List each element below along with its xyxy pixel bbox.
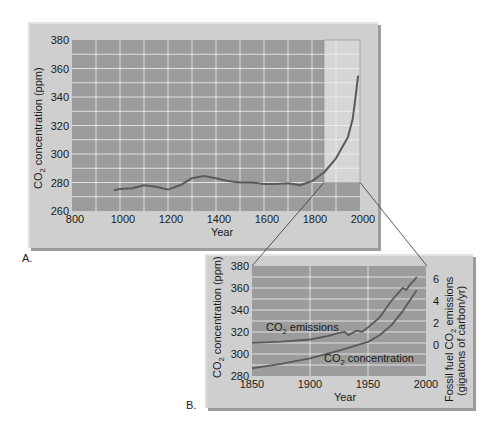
x-tick-label: 1400: [207, 213, 231, 225]
x-tick-label: 1000: [111, 213, 135, 225]
x-tick-label: 1850: [240, 378, 264, 390]
x-tick-label: 1200: [159, 213, 183, 225]
chart-b: 28030032034036038002461850190019502000Ye…: [211, 256, 467, 403]
x-axis-label: Year: [334, 391, 357, 403]
x-tick-label: 1800: [303, 213, 327, 225]
chart-a: 2602803003203403603808001000120014001600…: [32, 34, 375, 238]
y-tick-label-left: 380: [231, 260, 249, 272]
x-tick-label: 2000: [351, 213, 375, 225]
x-tick-label: 1950: [356, 378, 380, 390]
y-tick-label-left: 300: [231, 348, 249, 360]
y-tick-label: 380: [51, 34, 69, 46]
y-tick-label: 320: [51, 120, 69, 132]
y-axis-label-left: CO2 concentration (ppm): [211, 256, 226, 378]
y-tick-label-left: 320: [231, 326, 249, 338]
y-tick-label-right: 2: [433, 317, 439, 329]
y-tick-label-right: 4: [433, 295, 439, 307]
x-tick-label: 1600: [255, 213, 279, 225]
y-axis-label-right-line2: (gigatons of carbon/yr): [455, 286, 467, 396]
y-tick-label-left: 360: [231, 282, 249, 294]
x-tick-label: 2000: [414, 378, 438, 390]
x-axis-label: Year: [211, 226, 234, 238]
y-tick-label: 360: [51, 63, 69, 75]
chart-canvas: 2602803003203403603808001000120014001600…: [0, 0, 498, 431]
y-tick-label-right: 6: [433, 273, 439, 285]
y-tick-label: 300: [51, 148, 69, 160]
y-tick-label-right: 0: [433, 339, 439, 351]
y-tick-label: 280: [51, 177, 69, 189]
x-tick-label: 1900: [298, 378, 322, 390]
x-tick-label: 800: [66, 213, 84, 225]
y-tick-label-left: 340: [231, 304, 249, 316]
y-axis-label: CO2 concentration (ppm): [32, 67, 47, 189]
y-tick-label: 340: [51, 91, 69, 103]
